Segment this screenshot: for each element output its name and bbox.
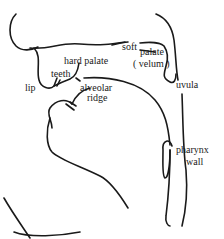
label-pharynx: pharynx xyxy=(176,145,209,155)
label-teeth: teeth xyxy=(51,69,70,79)
label-hard-palate: hard palate xyxy=(64,56,108,66)
label-velum: ( velum ) xyxy=(133,59,170,69)
lower-lip-outline xyxy=(49,101,72,128)
tongue-back-line xyxy=(166,150,170,226)
lower-teeth xyxy=(66,102,76,110)
vocal-tract-outline xyxy=(0,0,224,239)
hard-palate-line xyxy=(30,42,125,48)
lower-jaw-outline xyxy=(47,118,128,208)
label-wall: wall xyxy=(186,157,203,167)
label-palate: palate xyxy=(140,47,164,57)
teeth-outline xyxy=(54,78,60,86)
label-ridge: ridge xyxy=(87,93,108,103)
label-soft: soft xyxy=(122,42,137,52)
label-lip: lip xyxy=(25,83,36,93)
alveolar-pointer xyxy=(76,78,80,81)
label-uvula: uvula xyxy=(176,80,198,90)
throat-line xyxy=(14,232,80,236)
neck-line xyxy=(4,198,30,238)
nose-outline xyxy=(10,14,38,50)
vocal-tract-diagram: hard palate soft palate ( velum ) teeth … xyxy=(0,0,224,239)
